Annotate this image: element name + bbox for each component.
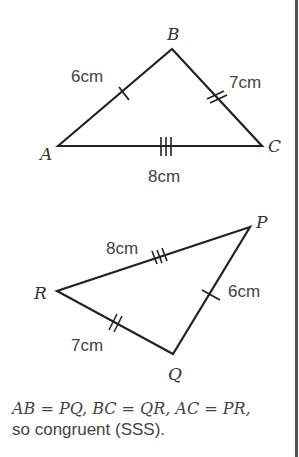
triangle-abc: A B C 6cm 7cm 8cm xyxy=(38,24,281,186)
vertex-label-a: A xyxy=(38,144,52,164)
vertex-label-c: C xyxy=(268,136,281,156)
caption: AB = PQ, BC = QR, AC = PR, so congruent … xyxy=(12,398,292,440)
side-label-ac: 8cm xyxy=(148,167,180,186)
side-label-pq: 6cm xyxy=(228,282,260,301)
triangles-figure: A B C 6cm 7cm 8cm P R Q xyxy=(0,0,299,457)
side-label-ab: 6cm xyxy=(71,67,103,86)
side-label-bc: 7cm xyxy=(229,73,261,92)
vertex-label-r: R xyxy=(33,283,47,303)
vertex-label-p: P xyxy=(255,212,268,232)
side-label-qr: 7cm xyxy=(71,336,103,355)
tick-mark-pr xyxy=(152,248,167,264)
diagram-panel: A B C 6cm 7cm 8cm P R Q xyxy=(0,0,299,457)
vertex-label-q: Q xyxy=(168,364,182,384)
caption-conclusion: so congruent (SSS). xyxy=(12,419,292,440)
triangle-pqr: P R Q 8cm 6cm 7cm xyxy=(33,212,268,384)
side-label-pr: 8cm xyxy=(106,239,138,258)
caption-equalities: AB = PQ, BC = QR, AC = PR, xyxy=(12,398,292,419)
vertex-label-b: B xyxy=(166,24,180,44)
